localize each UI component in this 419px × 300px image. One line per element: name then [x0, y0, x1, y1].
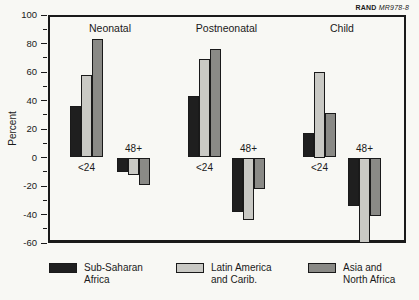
bar-child-sub-saharan-africa: [303, 133, 314, 157]
legend-label-line: Latin America: [211, 262, 272, 274]
legend-label-line: Asia and: [343, 262, 395, 274]
bar-postneonatal-asia-and-north-africa: [254, 158, 265, 189]
cluster-label: <24: [187, 162, 223, 173]
y-tick-minor: [43, 86, 47, 87]
y-tick-minor: [43, 171, 47, 172]
y-tick-label: -40: [4, 209, 37, 221]
legend-swatch-latin-america: [176, 263, 204, 273]
y-tick-minor: [43, 57, 47, 58]
bar-neonatal-asia-and-north-africa: [92, 39, 103, 157]
bar-postneonatal-latin-america-and-carib-: [199, 59, 210, 157]
y-tick-minor: [43, 143, 47, 144]
y-tick-minor: [43, 200, 47, 201]
legend-label-line: Sub-Saharan: [84, 262, 143, 274]
bar-neonatal-asia-and-north-africa: [139, 158, 150, 185]
bar-postneonatal-sub-saharan-africa: [232, 158, 243, 212]
y-tick-minor: [43, 114, 47, 115]
legend: Sub-Saharan Africa Latin America and Car…: [0, 262, 419, 296]
y-tick-label: -20: [4, 180, 37, 192]
legend-label-line: North Africa: [343, 274, 395, 286]
bar-neonatal-latin-america-and-carib-: [128, 158, 139, 175]
legend-swatch-sub-saharan-africa: [49, 263, 77, 273]
y-tick-label: 0: [4, 152, 37, 164]
cluster-label: 48+: [347, 143, 383, 154]
bar-neonatal-sub-saharan-africa: [70, 106, 81, 157]
y-tick-major: [41, 186, 47, 187]
y-tick-label: 40: [4, 95, 37, 107]
panel-title: Neonatal: [50, 22, 170, 34]
legend-swatch-asia-north-africa: [308, 263, 336, 273]
bar-chart: Percent 100806040200-20-40-60 Neonatal<2…: [48, 15, 406, 243]
legend-item-asia-north-africa: Asia and North Africa: [308, 262, 395, 286]
figure-page: RAND MR978-8 Percent 100806040200-20-40-…: [0, 0, 419, 300]
legend-item-latin-america: Latin America and Carib.: [176, 262, 272, 286]
cluster-label: 48+: [116, 143, 152, 154]
y-tick-major: [41, 72, 47, 73]
y-tick-major: [41, 243, 47, 244]
y-tick-minor: [43, 228, 47, 229]
legend-label-line: Africa: [84, 274, 143, 286]
y-tick-major: [41, 157, 47, 158]
rand-brand-label: RAND: [356, 4, 377, 11]
y-tick-label: 60: [4, 66, 37, 78]
legend-item-sub-saharan-africa: Sub-Saharan Africa: [49, 262, 143, 286]
y-tick-label: 80: [4, 38, 37, 50]
y-tick-major: [41, 43, 47, 44]
bar-child-asia-and-north-africa: [370, 158, 381, 216]
y-tick-major: [41, 214, 47, 215]
bar-neonatal-sub-saharan-africa: [117, 158, 128, 172]
y-tick-major: [41, 100, 47, 101]
bar-postneonatal-sub-saharan-africa: [188, 96, 199, 157]
bar-neonatal-latin-america-and-carib-: [81, 75, 92, 158]
bar-postneonatal-latin-america-and-carib-: [243, 158, 254, 221]
bar-postneonatal-asia-and-north-africa: [210, 49, 221, 157]
cluster-label: 48+: [231, 143, 267, 154]
bar-child-latin-america-and-carib-: [359, 158, 370, 244]
bar-child-sub-saharan-africa: [348, 158, 359, 206]
report-number-label: MR978-8: [379, 4, 409, 11]
y-tick-label: -60: [4, 237, 37, 249]
y-tick-label: 20: [4, 123, 37, 135]
bar-child-asia-and-north-africa: [325, 113, 336, 157]
bar-child-latin-america-and-carib-: [314, 72, 325, 158]
cluster-label: <24: [69, 162, 105, 173]
cluster-label: <24: [302, 162, 338, 173]
y-tick-major: [41, 129, 47, 130]
y-tick-minor: [43, 29, 47, 30]
panel-title: Postneonatal: [167, 22, 287, 34]
y-tick-label: 100: [4, 9, 37, 21]
document-id: RAND MR978-8: [356, 4, 409, 11]
panel-title: Child: [282, 22, 402, 34]
legend-label-line: and Carib.: [211, 274, 272, 286]
y-tick-major: [41, 15, 47, 16]
